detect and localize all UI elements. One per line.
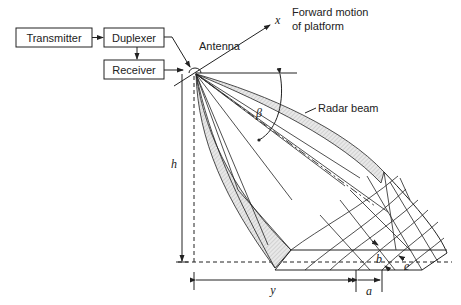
y-label: y bbox=[269, 283, 276, 297]
radar-beam-leader bbox=[305, 108, 316, 113]
duplexer-label: Duplexer bbox=[112, 32, 156, 44]
block-diagram: Transmitter Duplexer Receiver bbox=[16, 28, 190, 79]
forward-motion-label-line2: of platform bbox=[292, 20, 344, 32]
beta-label: β bbox=[255, 106, 262, 120]
duplexer-to-antenna-arrow bbox=[164, 37, 190, 67]
x-axis-label: x bbox=[274, 13, 281, 27]
cross-line bbox=[400, 178, 410, 200]
b-label: b bbox=[376, 252, 382, 266]
radar-beam-label: Radar beam bbox=[318, 102, 379, 114]
range-arc bbox=[404, 238, 444, 270]
range-arc bbox=[382, 222, 438, 270]
cross-line bbox=[384, 172, 396, 250]
range-arc bbox=[305, 189, 406, 270]
b-dimension-arrow-2 bbox=[385, 266, 390, 270]
range-arc bbox=[358, 210, 428, 270]
transmitter-label: Transmitter bbox=[26, 32, 82, 44]
beam-center-axis bbox=[196, 74, 375, 206]
x-axis-arrow bbox=[174, 25, 270, 86]
receiver-label: Receiver bbox=[112, 64, 156, 76]
radar-geometry-diagram: Transmitter Duplexer Receiver Antenna x … bbox=[0, 0, 461, 305]
a-label: a bbox=[366, 284, 372, 298]
height-label: h bbox=[171, 157, 177, 171]
e-label: e bbox=[404, 259, 410, 273]
forward-motion-label-line1: Forward motion bbox=[292, 6, 368, 18]
beta-angle-point bbox=[257, 138, 260, 141]
beam-ray bbox=[196, 74, 291, 250]
antenna-label: Antenna bbox=[199, 40, 241, 52]
